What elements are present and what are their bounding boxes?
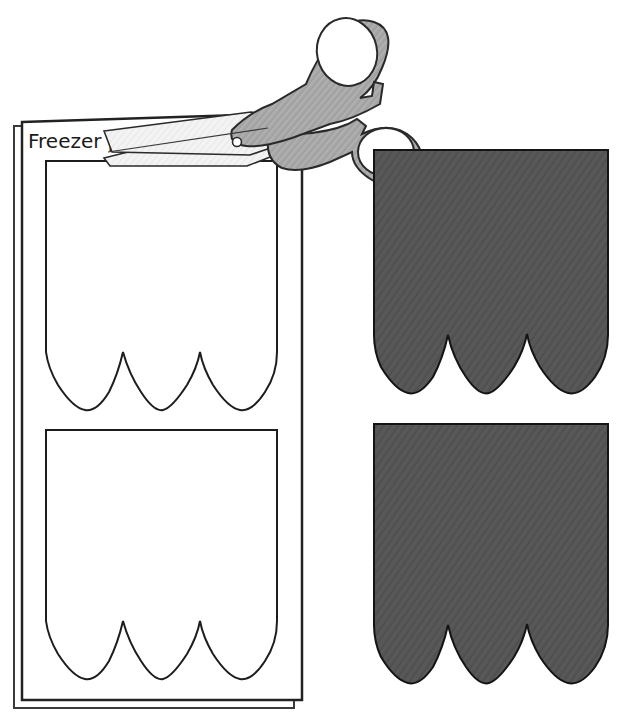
fabric-piece-bottom <box>374 424 608 683</box>
scissors-pivot-screw <box>233 138 242 147</box>
illustration-canvas: Freezer paper <box>0 0 622 715</box>
paper-template-bottom <box>46 430 277 679</box>
cutting-diagram-svg: Freezer paper <box>0 0 622 715</box>
paper-template-top <box>46 161 277 410</box>
fabric-piece-top <box>374 150 608 393</box>
fabric-piece-bottom-outline <box>374 424 608 683</box>
paper-template-top-outline <box>46 161 277 410</box>
paper-template-bottom-outline <box>46 430 277 679</box>
fabric-piece-top-outline <box>374 150 608 393</box>
